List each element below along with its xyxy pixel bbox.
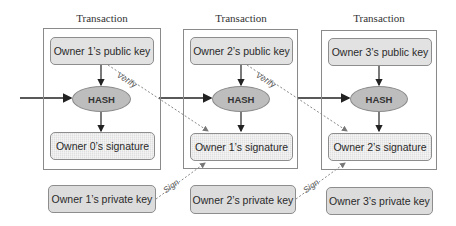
private-key-node-2: Owner 2’s private key <box>190 185 296 214</box>
signature-node-1: Owner 0’s signature <box>50 132 155 160</box>
hash-node-2: HASH <box>212 86 270 112</box>
transaction-chain-diagram: Transaction Owner 1’s public key HASH Ow… <box>0 0 456 226</box>
transaction-title-3: Transaction <box>319 12 439 24</box>
hash-node-1: HASH <box>72 86 131 112</box>
signature-node-3: Owner 2’s signature <box>328 133 432 161</box>
private-key-node-3: Owner 3’s private key <box>326 187 433 215</box>
public-key-node-2: Owner 2’s public key <box>190 37 293 65</box>
transaction-title-1: Transaction <box>42 12 162 24</box>
transaction-title-2: Transaction <box>181 12 301 24</box>
public-key-node-3: Owner 3’s public key <box>328 38 432 66</box>
public-key-node-1: Owner 1’s public key <box>50 37 154 65</box>
signature-node-2: Owner 1’s signature <box>190 133 293 161</box>
hash-node-3: HASH <box>350 86 408 112</box>
private-key-node-1: Owner 1’s private key <box>48 185 156 213</box>
